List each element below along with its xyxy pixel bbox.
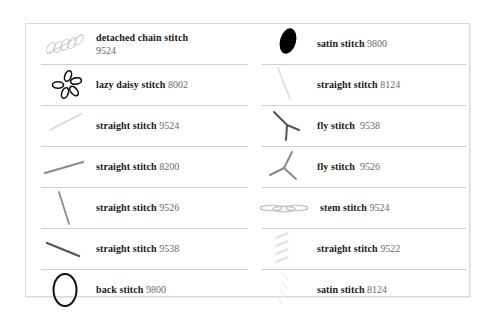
legend-row: stem stitch 9524 — [262, 188, 466, 229]
legend-row: straight stitch 9522 — [262, 229, 466, 270]
thread-code: 9526 — [360, 161, 380, 172]
thread-code: 8002 — [168, 79, 188, 90]
legend-row: fly stitch 9538 — [262, 106, 466, 147]
legend-row: satin stitch 9800 — [262, 24, 466, 65]
detached-chain-leaf-icon — [41, 24, 96, 64]
thread-code: 8200 — [159, 161, 179, 172]
legend-row: detached chain stitch 9524 — [41, 24, 248, 65]
stitch-name: straight stitch — [96, 120, 157, 131]
legend-row: straight stitch 9524 — [41, 106, 248, 147]
stitch-name: straight stitch — [317, 243, 378, 254]
thread-code: 9800 — [146, 284, 166, 295]
legend-row: straight stitch 8200 — [41, 147, 248, 188]
straight-line-icon — [41, 188, 96, 228]
legend-row: back stitch 9800 — [41, 270, 248, 310]
thread-code: 9538 — [159, 243, 179, 254]
legend-row: lazy daisy stitch 8002 — [41, 65, 248, 106]
legend-row: straight stitch 8124 — [262, 65, 466, 106]
faint-satin-icon — [254, 270, 314, 310]
parallel-lines-icon — [254, 229, 314, 269]
straight-line-icon — [41, 229, 96, 269]
stitch-name: detached chain stitch — [96, 32, 188, 44]
stitch-name: stem stitch — [320, 202, 367, 213]
right-column: satin stitch 9800 straight stitch 8124 — [262, 24, 466, 310]
left-column: detached chain stitch 9524 lazy dais — [41, 24, 248, 310]
thread-code: 9800 — [367, 38, 387, 49]
legend-row: straight stitch 9538 — [41, 229, 248, 270]
stitch-name: fly stitch — [317, 161, 355, 172]
thread-code: 9524 — [96, 45, 188, 57]
stitch-name: lazy daisy stitch — [96, 79, 165, 90]
legend-row: satin stitch 8124 — [262, 270, 466, 310]
stitch-name: fly stitch — [317, 120, 355, 131]
lazy-daisy-flower-icon — [41, 65, 96, 105]
straight-line-icon — [254, 65, 314, 105]
legend-row: straight stitch 9526 — [41, 188, 248, 229]
stitch-name: straight stitch — [96, 202, 157, 213]
thread-code: 9524 — [159, 120, 179, 131]
fly-stitch-y-icon — [254, 106, 314, 146]
stitch-name: straight stitch — [96, 243, 157, 254]
thread-code: 9522 — [380, 243, 400, 254]
thread-code: 8124 — [380, 79, 400, 90]
thread-code: 9538 — [360, 120, 380, 131]
stitch-name: satin stitch — [317, 284, 365, 295]
stitch-legend-panel: detached chain stitch 9524 lazy dais — [25, 23, 470, 297]
straight-line-icon — [41, 147, 96, 187]
thread-code: 8124 — [367, 284, 387, 295]
stitch-name: satin stitch — [317, 38, 365, 49]
straight-line-icon — [41, 106, 96, 146]
thread-code: 9524 — [369, 202, 389, 213]
legend-row: fly stitch 9526 — [262, 147, 466, 188]
filled-oval-icon — [254, 24, 314, 64]
thread-code: 9526 — [159, 202, 179, 213]
fly-stitch-y-icon — [254, 147, 314, 187]
stitch-name: back stitch — [96, 284, 144, 295]
oval-outline-icon — [41, 270, 96, 310]
stitch-name: straight stitch — [96, 161, 157, 172]
stem-stitch-icon — [254, 188, 314, 228]
stitch-name: straight stitch — [317, 79, 378, 90]
